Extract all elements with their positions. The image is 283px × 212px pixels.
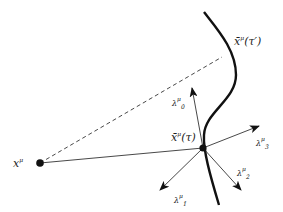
label-tetrad-3: λμ3̂	[256, 136, 269, 150]
tetrad-3-arrow	[203, 126, 259, 148]
connecting-line	[40, 148, 203, 163]
point-x	[36, 159, 44, 167]
worldline-curve	[204, 12, 236, 205]
diagram-graphics	[0, 0, 283, 212]
label-x-mu: xμ	[13, 157, 23, 169]
label-tetrad-1: λμ1̂	[174, 193, 187, 207]
label-worldline-later: x̄μ(τ′)	[234, 35, 261, 47]
tetrad-1-arrow	[160, 148, 203, 190]
label-worldline-point: x̄μ(τ)	[171, 131, 196, 143]
point-worldline	[199, 144, 206, 151]
dashed-line	[40, 57, 222, 163]
label-tetrad-2: λμ2̂	[237, 166, 250, 180]
label-tetrad-0: λμ0̂	[172, 96, 185, 110]
diagram-canvas: xμ x̄μ(τ′) x̄μ(τ) λμ0̂ λμ3̂ λμ2̂ λμ1̂	[0, 0, 283, 212]
